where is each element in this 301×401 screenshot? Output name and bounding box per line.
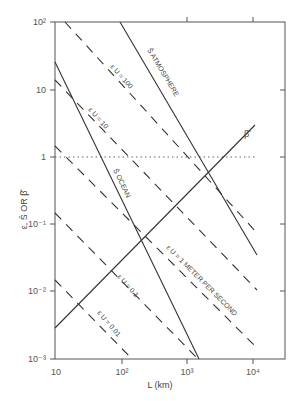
- y-tick-label: 1: [41, 152, 46, 162]
- chart: 10² 10 1 10⁻¹ 10⁻² 10⁻³ 10 10² 10³ 10⁴ L…: [0, 0, 301, 401]
- x-tick-label: 10³: [180, 367, 193, 377]
- epsilon-u10-line: [55, 80, 257, 290]
- s-atmosphere-line: [120, 22, 257, 255]
- x-tick-label: 10²: [115, 367, 128, 377]
- y-tick-label: 10⁻³: [28, 354, 46, 364]
- plot-frame: [55, 22, 285, 359]
- epsilon-u001-line: [55, 280, 132, 359]
- u10-label: ε U = 10: [87, 106, 110, 130]
- epsilon-u1-line: [55, 146, 257, 348]
- x-tick-label: 10⁴: [246, 367, 260, 377]
- u100-label: ε U = 100: [109, 63, 134, 90]
- y-ticks: [50, 17, 285, 364]
- s-ocean-label: Ŝ OCEAN: [112, 167, 133, 199]
- u1-label: ε U = 1 METER PER SECOND: [165, 244, 238, 317]
- y-tick-label: 10⁻²: [28, 286, 46, 296]
- x-tick-label: 10: [51, 367, 61, 377]
- epsilon-u100-line: [65, 22, 257, 233]
- u01-label: ε U = 0.1: [116, 273, 140, 298]
- s-ocean-line: [55, 62, 199, 359]
- y-tick-label: 10²: [33, 17, 46, 27]
- s-atmosphere-label: Ŝ ATMOSPHERE: [146, 46, 181, 97]
- y-tick-label: 10⁻¹: [28, 219, 46, 229]
- x-axis-label: L (km): [147, 380, 172, 390]
- y-axis-label: ε, Ŝ OR β̂: [19, 189, 29, 230]
- u001-label: ε U = 0.01: [96, 309, 122, 338]
- y-tick-label: 10: [36, 85, 46, 95]
